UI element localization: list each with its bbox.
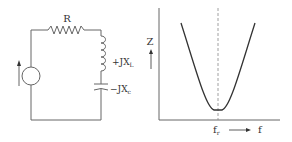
resistor [48, 26, 86, 34]
wire-bottom [31, 85, 101, 120]
wire-top-left [31, 30, 48, 67]
z-arrow-icon [149, 49, 153, 54]
ac-source [22, 67, 40, 85]
y-axis-label: Z [147, 36, 154, 47]
resonance-label: fr [213, 124, 220, 136]
current-arrow-icon [17, 60, 21, 66]
impedance-curve [181, 23, 255, 110]
impedance-graph [149, 8, 280, 132]
capacitor-label: −JXc [110, 84, 132, 95]
inductor-label: +JXL [112, 57, 134, 68]
series-rlc-diagram: R +JXL −JXc Z f fr [0, 0, 292, 142]
f-arrow-icon [246, 128, 251, 132]
resistor-label: R [63, 13, 71, 24]
wire-top-right [86, 30, 101, 36]
x-axis-label: f [258, 124, 263, 135]
circuit [19, 26, 108, 120]
inductor [101, 36, 106, 71]
